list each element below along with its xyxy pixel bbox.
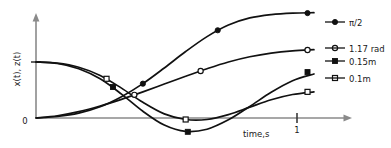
data-marker-s1-p0: [132, 92, 137, 97]
x-axis-arrow-icon: [344, 115, 353, 122]
data-marker-s0-p1: [215, 28, 220, 33]
y-axis-arrow-icon: [33, 13, 40, 22]
series-label-pi-over-2: π/2: [349, 18, 362, 28]
curve-pi-over-2: [36, 13, 314, 118]
series-label-0-1m: 0.1m: [349, 74, 371, 84]
data-marker-s3-p2: [305, 89, 310, 94]
series-label-0-15m: 0.15m: [349, 57, 376, 67]
origin-label: 0: [22, 116, 27, 126]
chart-figure: π/2 1.17 rad 0.15m 0.1m time,s x(t), z(t…: [0, 0, 391, 148]
x-axis-label: time,s: [243, 129, 270, 139]
data-marker-s1-p1: [198, 68, 203, 73]
series-label-1-17-rad: 1.17 rad: [349, 44, 385, 54]
y-axis-label: x(t), z(t): [12, 52, 22, 87]
data-marker-s3-p0: [104, 76, 109, 81]
data-marker-s1-p2: [305, 47, 310, 52]
data-marker-s0-p2: [305, 10, 310, 15]
line-chart: π/2 1.17 rad 0.15m 0.1m time,s x(t), z(t…: [0, 0, 391, 148]
data-marker-s2-p0: [110, 85, 115, 90]
data-marker-s2-p2: [305, 70, 310, 75]
data-marker-s3-p1: [183, 117, 188, 122]
curve-0-15m: [36, 62, 314, 132]
curves-group: [36, 13, 314, 132]
data-marker-s0-p0: [140, 81, 145, 86]
data-marker-s2-p1: [185, 129, 190, 134]
x-tick-label-1: 1: [294, 125, 299, 135]
